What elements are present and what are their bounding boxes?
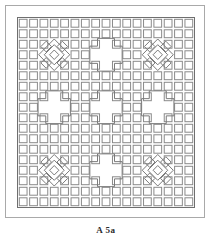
grid-cell <box>40 82 48 90</box>
grid-cell <box>81 30 89 38</box>
pattern-plate <box>17 17 195 208</box>
grid-cell <box>164 30 172 38</box>
grid-cell <box>112 177 120 185</box>
grid-cell <box>71 82 79 90</box>
diamond-cluster-bottom-right <box>153 166 162 175</box>
grid-cell <box>133 19 141 27</box>
grid-cell <box>92 61 100 69</box>
grid-cell <box>123 30 131 38</box>
grid-cell <box>185 40 193 48</box>
grid-cell <box>175 187 183 195</box>
grid-cell <box>175 156 183 164</box>
grid-cell <box>175 82 183 90</box>
grid-cell <box>71 187 79 195</box>
grid-cell <box>123 93 131 101</box>
grid-cell <box>133 30 141 38</box>
grid-cell <box>71 198 79 206</box>
grid-cell <box>92 177 100 185</box>
grid-cell <box>154 187 162 195</box>
grid-cell <box>81 40 89 48</box>
grid-cell <box>40 93 48 101</box>
grid-cell <box>133 145 141 153</box>
grid-cell <box>133 93 141 101</box>
grid-cell <box>112 145 120 153</box>
grid-cell <box>61 82 69 90</box>
grid-cell <box>40 145 48 153</box>
cross-middle-left <box>38 91 70 124</box>
grid-cell <box>81 82 89 90</box>
grid-cell <box>71 61 79 69</box>
grid-cell <box>19 72 27 80</box>
grid-cell <box>154 72 162 80</box>
grid-cell <box>133 61 141 69</box>
grid-cell <box>30 187 38 195</box>
grid-cell <box>133 166 141 174</box>
grid-cell <box>92 145 100 153</box>
grid-cell <box>144 114 152 122</box>
grid-cell <box>50 72 58 80</box>
grid-cell <box>71 72 79 80</box>
grid-cell <box>133 177 141 185</box>
grid-cell <box>112 114 120 122</box>
grid-cell <box>185 156 193 164</box>
grid-cell <box>144 30 152 38</box>
cross-top-center <box>90 38 122 71</box>
grid-cell <box>185 135 193 143</box>
grid-cell <box>133 40 141 48</box>
grid-cell <box>112 198 120 206</box>
grid-cell <box>19 177 27 185</box>
grid-cell <box>102 19 110 27</box>
grid-cell <box>71 51 79 59</box>
grid-cell <box>61 72 69 80</box>
grid-cell <box>61 135 69 143</box>
grid-cell <box>144 187 152 195</box>
grid-cell <box>30 72 38 80</box>
grid-cell <box>175 30 183 38</box>
grid-cell <box>19 135 27 143</box>
grid-cell <box>19 19 27 27</box>
grid-cell <box>50 19 58 27</box>
grid-cell <box>71 166 79 174</box>
grid-cell <box>19 114 27 122</box>
grid-cell <box>175 114 183 122</box>
grid-cell <box>19 30 27 38</box>
grid-cell <box>133 156 141 164</box>
diamond-cluster-top-right <box>153 50 162 59</box>
grid-cell <box>144 72 152 80</box>
grid-cell <box>50 30 58 38</box>
grid-cell <box>30 93 38 101</box>
grid-cell <box>133 135 141 143</box>
grid-cell <box>81 156 89 164</box>
grid-cell <box>30 135 38 143</box>
grid-cell <box>123 177 131 185</box>
grid-cell <box>40 72 48 80</box>
grid-cell <box>40 30 48 38</box>
grid-cell <box>164 135 172 143</box>
grid-cell <box>185 114 193 122</box>
grid-cell <box>102 124 110 132</box>
grid-cell <box>175 51 183 59</box>
grid-cell <box>19 82 27 90</box>
figure-outer-frame <box>5 5 205 218</box>
grid-cell <box>81 135 89 143</box>
grid-cell <box>123 82 131 90</box>
cross-bottom-center <box>90 154 122 187</box>
grid-cell <box>123 156 131 164</box>
grid-cell <box>144 198 152 206</box>
grid-cell <box>112 187 120 195</box>
grid-cell <box>40 135 48 143</box>
grid-cell <box>92 198 100 206</box>
grid-cell <box>112 61 120 69</box>
grid-cell <box>185 82 193 90</box>
grid-cell <box>175 19 183 27</box>
grid-cell <box>102 145 110 153</box>
grid-cell <box>133 103 141 111</box>
grid-cell <box>175 166 183 174</box>
grid-cell <box>175 177 183 185</box>
grid-cell <box>61 19 69 27</box>
grid-cell <box>19 93 27 101</box>
grid-cell <box>19 124 27 132</box>
grid-cell <box>30 30 38 38</box>
grid-cell <box>61 93 69 101</box>
grid-cell <box>164 93 172 101</box>
